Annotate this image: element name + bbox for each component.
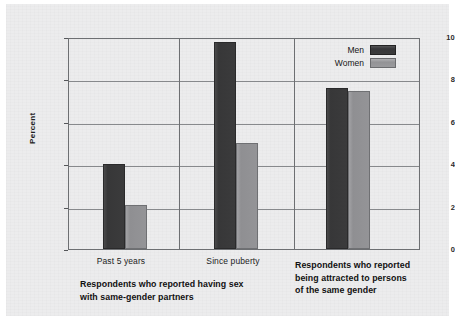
- panel-divider-2: [294, 39, 295, 249]
- y-tick-label-6: 6: [429, 119, 455, 127]
- caption-attract-line-3: of the same gender: [295, 284, 440, 297]
- legend-row-women: Women: [314, 56, 396, 69]
- scanned-page: Percent 10 8 6 4 2 0: [0, 0, 455, 333]
- y-tick-mark-0: [64, 250, 68, 251]
- caption-attract-line-2: being attracted to persons: [295, 272, 440, 285]
- caption-sex-line-2: with same-gender partners: [80, 291, 280, 304]
- legend-label-men: Men: [347, 45, 364, 55]
- bar-women-past-5-years: [125, 205, 147, 250]
- x-tick-label-since-puberty: Since puberty: [190, 256, 276, 266]
- y-tick-label-10: 10: [429, 34, 455, 42]
- y-tick-label-4: 4: [429, 161, 455, 169]
- bar-women-since-puberty: [236, 143, 258, 249]
- gridline-8: [69, 81, 419, 82]
- bar-chart: Percent 10 8 6 4 2 0: [0, 0, 455, 333]
- caption-attraction: Respondents who reported being attracted…: [295, 259, 440, 297]
- y-tick-label-2: 2: [429, 204, 455, 212]
- y-tick-label-8: 8: [429, 77, 455, 85]
- legend-label-women: Women: [335, 58, 364, 68]
- caption-sex-line-1: Respondents who reported having sex: [80, 278, 280, 291]
- legend-swatch-women-icon: [370, 58, 396, 68]
- legend: Men Women: [314, 43, 396, 69]
- y-tick-label-0: 0: [429, 246, 455, 254]
- legend-row-men: Men: [314, 43, 396, 56]
- plot-area: Men Women: [68, 38, 420, 250]
- bar-men-attraction: [326, 88, 348, 249]
- caption-sex-partners: Respondents who reported having sex with…: [80, 278, 280, 303]
- caption-attract-line-1: Respondents who reported: [295, 259, 440, 272]
- y-axis-label: Percent: [28, 113, 37, 144]
- bar-men-since-puberty: [214, 42, 236, 249]
- bar-men-past-5-years: [103, 164, 125, 249]
- x-tick-label-past-5-years: Past 5 years: [78, 256, 164, 266]
- panel-divider-1: [179, 39, 180, 249]
- legend-swatch-men-icon: [370, 45, 396, 55]
- bar-women-attraction: [348, 91, 370, 249]
